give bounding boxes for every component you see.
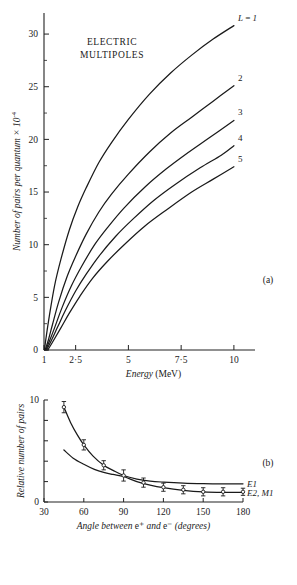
panel-a-x-ticklabel: 1 [42,355,47,365]
panel-a-curve-label-L3: 3 [238,107,243,117]
panel-b-data-point [142,481,145,484]
figure-container: 05101520253012·557·510Number of pairs pe… [0,0,297,585]
panel-b-x-ticklabel: 150 [196,507,211,517]
panel-b-data-point [241,490,244,493]
panel-a-curve-L3 [46,120,234,350]
panel-b-curve-E1 [64,407,243,484]
panel-a-y-ticklabel: 30 [29,29,39,39]
panel-b-data-point [62,405,65,408]
panel-a-curve-L5 [48,167,234,350]
panel-b-x-ticklabel: 180 [236,507,251,517]
panel-b-y-ticklabel: 0 [34,497,39,507]
panel-a-x-ticklabel: 2·5 [69,355,82,365]
panel-b-x-axis-label: Angle between e⁺ and e⁻ (degrees) [76,521,210,532]
panel-b-x-ticklabel: 60 [79,507,89,517]
panel-b-data-point [221,490,224,493]
figure-svg: 05101520253012·557·510Number of pairs pe… [0,0,297,585]
panel-b-data-point [122,474,125,477]
panel-a-curve-label-L5: 5 [238,154,243,164]
panel-a-curve-L1 [44,26,233,350]
panel-b-y-ticklabel: 10 [30,395,40,405]
panel-a-y-ticklabel: 10 [29,240,39,250]
panel-b-label: (b) [262,458,273,469]
panel-a-x-ticklabel: 5 [126,355,131,365]
panel-b-data-point [162,486,165,489]
panel-a-curve-label-L2: 2 [238,73,243,83]
panel-a-curve-label-L1: L = 1 [237,13,257,23]
panel-a-x-axis-label: Energy (MeV) [125,369,181,380]
panel-b-data-point [202,490,205,493]
panel-b-curve-E2M1 [64,450,243,492]
panel-a-y-ticklabel: 20 [29,135,39,145]
panel-a-label: (a) [263,275,274,286]
panel-a-x-ticklabel: 7·5 [175,355,188,365]
panel-a-title-line2: MULTIPOLES [80,50,144,60]
panel-a-curve-L4 [47,146,234,350]
panel-b-x-ticklabel: 90 [119,507,129,517]
panel-b-series-label-E2M1: E2, M1 [246,488,274,498]
panel-b-x-ticklabel: 120 [156,507,171,517]
panel-a-y-axis-label: Number of pairs per quantum × 10-4 [10,111,21,252]
panel-a-x-ticklabel: 10 [229,355,239,365]
panel-a-y-ticklabel: 0 [33,345,38,355]
panel-a-title-line1: ELECTRIC [87,37,137,47]
panel-b-data-point [82,443,85,446]
panel-b-y-axis-label: Relative number of pairs [16,404,26,499]
panel-a-curve-label-L4: 4 [238,133,243,143]
panel-b-data-point [182,488,185,491]
panel-a-y-ticklabel: 25 [29,82,39,92]
svg-text:Relative number of pairs: Relative number of pairs [16,404,26,499]
panel-b-x-ticklabel: 30 [39,507,49,517]
svg-text:Number of pairs per quantum ×: Number of pairs per quantum × 10-4 [10,111,21,252]
panel-a-y-ticklabel: 15 [29,187,39,197]
panel-b-data-point [102,464,105,467]
panel-a-y-ticklabel: 5 [33,293,38,303]
